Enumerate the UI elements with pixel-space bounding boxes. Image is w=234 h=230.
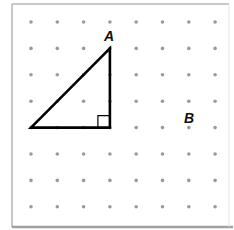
grid-dot [187,126,191,130]
grid-dot [213,205,217,209]
grid-dot [187,47,191,51]
grid-dot [56,152,60,156]
grid-dot [187,99,191,103]
dot-grid-canvas: A B [0,0,234,230]
grid-dot [29,20,33,24]
grid-dot [108,205,112,209]
grid-dot [134,152,138,156]
grid-dot [213,20,217,24]
label-a: A [103,28,114,44]
grid-dot [108,152,112,156]
grid-dot [161,47,165,51]
grid-dot [56,73,60,77]
grid-dot [29,205,33,209]
grid-dot [29,99,33,103]
grid-dot [82,205,86,209]
grid-dot [56,205,60,209]
grid-dot [134,179,138,183]
grid-dot [187,205,191,209]
grid-dot [187,179,191,183]
grid-dot [134,126,138,130]
dot-grid-figure: A B [0,0,234,230]
grid-dot [82,99,86,103]
grid-dot [82,20,86,24]
grid-dot [213,99,217,103]
grid-dot [82,152,86,156]
grid-dot [213,126,217,130]
grid-dot [134,205,138,209]
grid-dot [161,126,165,130]
grid-dot [29,152,33,156]
grid-dot [108,179,112,183]
grid-dot [134,73,138,77]
grid-dot [108,20,112,24]
grid-dot [82,179,86,183]
grid-dot [56,20,60,24]
grid-dot [213,73,217,77]
grid-dot [213,179,217,183]
grid-dot [187,20,191,24]
label-b: B [184,110,194,126]
grid-dot [213,152,217,156]
grid-dot [213,47,217,51]
grid-dot [56,47,60,51]
grid-dot [187,152,191,156]
grid-dot [161,99,165,103]
grid-dot [134,47,138,51]
grid-dot [134,99,138,103]
grid-dot [56,179,60,183]
point-labels: A B [103,28,194,126]
grid-dot [29,179,33,183]
figure-border [12,4,233,227]
grid-dot [29,47,33,51]
grid-dot [161,20,165,24]
grid-dot [187,73,191,77]
right-triangle [31,48,110,127]
grid-dot [29,73,33,77]
grid-dot [161,205,165,209]
grid-dot [82,47,86,51]
grid-dot [161,179,165,183]
grid-dot [161,152,165,156]
grid-dot [134,20,138,24]
grid-dot [161,73,165,77]
